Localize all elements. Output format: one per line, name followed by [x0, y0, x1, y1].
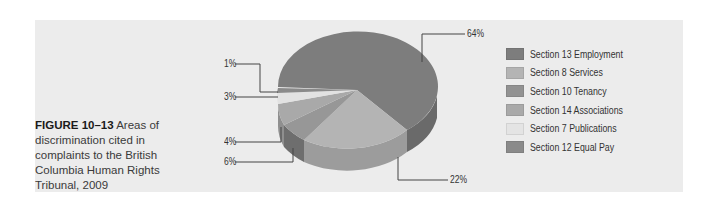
chart-legend: Section 13 Employment Section 8 Services…	[506, 45, 636, 157]
label-employment: 64%	[467, 28, 484, 39]
legend-item-services: Section 8 Services	[506, 64, 636, 83]
legend-label: Section 13 Employment	[530, 49, 623, 60]
legend-item-associations: Section 14 Associations	[506, 101, 636, 120]
label-tenancy: 6%	[224, 156, 236, 167]
legend-item-publications: Section 7 Publications	[506, 119, 636, 138]
label-associations: 4%	[224, 136, 236, 147]
legend-label: Section 7 Publications	[530, 123, 617, 134]
legend-label: Section 10 Tenancy	[530, 86, 607, 97]
legend-label: Section 14 Associations	[530, 105, 623, 116]
legend-item-employment: Section 13 Employment	[506, 45, 636, 64]
legend-item-equal-pay: Section 12 Equal Pay	[506, 138, 636, 157]
legend-swatch	[506, 123, 524, 135]
legend-swatch	[506, 141, 524, 153]
label-equal-pay: 1%	[224, 58, 236, 69]
legend-swatch	[506, 85, 524, 97]
legend-item-tenancy: Section 10 Tenancy	[506, 82, 636, 101]
legend-swatch	[506, 104, 524, 116]
label-services: 22%	[450, 174, 467, 185]
legend-label: Section 8 Services	[530, 67, 603, 78]
legend-label: Section 12 Equal Pay	[530, 142, 614, 153]
legend-swatch	[506, 67, 524, 79]
label-publications: 3%	[224, 91, 236, 102]
legend-swatch	[506, 48, 524, 60]
